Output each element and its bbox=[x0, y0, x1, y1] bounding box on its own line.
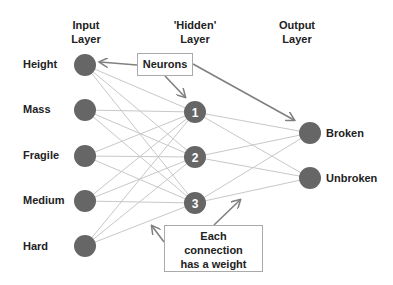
input-node bbox=[74, 235, 96, 257]
input-node bbox=[74, 54, 96, 76]
input-label-fragile: Fragile bbox=[23, 149, 59, 161]
input-label-hard: Hard bbox=[23, 240, 48, 252]
hidden-node-label: 2 bbox=[192, 151, 199, 165]
callout-line: has a weight bbox=[165, 257, 262, 271]
output-label-unbroken: Unbroken bbox=[326, 172, 377, 184]
output-label-broken: Broken bbox=[326, 127, 364, 139]
neurons-callout: Neurons bbox=[137, 53, 193, 76]
output-node bbox=[299, 167, 321, 189]
header-line: Output bbox=[272, 18, 322, 32]
header-line: Layer bbox=[62, 32, 110, 46]
hidden-node-label: 3 bbox=[192, 197, 199, 211]
input-node bbox=[74, 99, 96, 121]
input-label-medium: Medium bbox=[23, 194, 65, 206]
input-label-mass: Mass bbox=[23, 103, 51, 115]
input-label-height: Height bbox=[23, 58, 57, 70]
header-line: Layer bbox=[165, 32, 225, 46]
output-node bbox=[299, 122, 321, 144]
input-layer-header: Input Layer bbox=[62, 18, 110, 46]
hidden-node-label: 1 bbox=[192, 106, 199, 120]
callout-line: Each bbox=[165, 229, 262, 243]
header-line: 'Hidden' bbox=[165, 18, 225, 32]
output-layer-header: Output Layer bbox=[272, 18, 322, 46]
hidden-layer-header: 'Hidden' Layer bbox=[165, 18, 225, 46]
weight-callout: Each connection has a weight bbox=[164, 225, 263, 272]
header-line: Layer bbox=[272, 32, 322, 46]
input-node bbox=[74, 190, 96, 212]
header-line: Input bbox=[62, 18, 110, 32]
input-node bbox=[74, 145, 96, 167]
callout-line: connection bbox=[165, 243, 262, 257]
